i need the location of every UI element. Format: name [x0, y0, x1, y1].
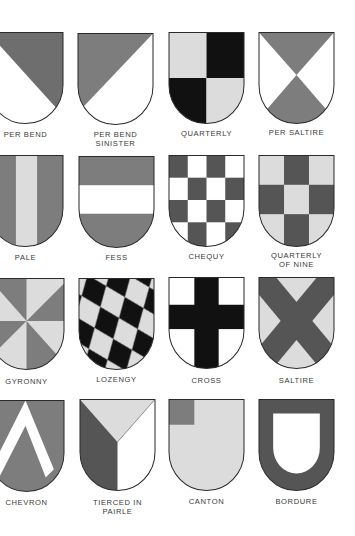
per-saltire-shield-icon — [259, 32, 334, 124]
gyronny-shield-icon — [0, 278, 64, 370]
bordure-shield-icon — [259, 399, 334, 491]
per-bend-shield-icon — [0, 32, 63, 124]
fess-shield-icon — [79, 156, 154, 248]
quarterly-of-nine-shield-icon — [259, 155, 334, 247]
chevron-shield-icon — [0, 400, 64, 492]
per-bend-sinister-shield-icon — [78, 33, 153, 125]
shield-label: SALTIRE — [239, 376, 354, 385]
chequy-shield-icon — [169, 155, 244, 247]
shield-label: QUARTERLY OF NINE — [239, 251, 354, 269]
saltire-shield-icon — [259, 277, 334, 369]
cross-shield-icon — [169, 277, 244, 369]
pale-shield-icon — [0, 155, 63, 247]
shield-label: BORDURE — [239, 497, 354, 506]
lozengy-shield-icon — [79, 278, 154, 370]
quarterly-shield-icon — [169, 32, 244, 124]
shield-label: PER SALTIRE — [239, 128, 354, 137]
canton-shield-icon — [169, 399, 244, 491]
tierced-in-pairle-shield-icon — [80, 399, 155, 491]
